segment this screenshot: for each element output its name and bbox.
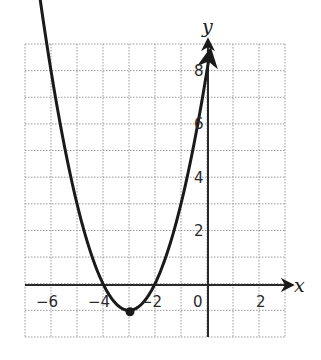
parabola-graph: y x −6 −4 −2 0 2 2 4 6 8 <box>0 0 321 360</box>
x-tick-label: −4 <box>88 293 110 311</box>
vertex-point <box>126 307 135 316</box>
y-tick-label: 2 <box>194 222 204 240</box>
x-tick-label: 2 <box>256 293 266 311</box>
x-axis-label: x <box>294 274 305 296</box>
y-tick-label: 4 <box>194 169 204 187</box>
y-tick-label: 8 <box>194 62 204 80</box>
y-axis-label: y <box>201 15 213 37</box>
parabola-curve <box>26 0 210 310</box>
x-tick-label: −6 <box>36 293 58 311</box>
y-tick-label: 6 <box>194 115 204 133</box>
x-tick-label: −2 <box>140 293 162 311</box>
x-tick-label: 0 <box>193 293 203 311</box>
